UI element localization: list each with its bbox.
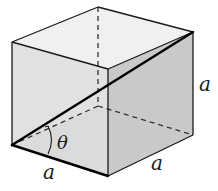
- edge-label-right-vertical: a: [199, 72, 211, 96]
- cube-svg: θ a a a: [0, 0, 218, 191]
- cube-diagram: θ a a a: [0, 0, 218, 191]
- angle-label-theta: θ: [57, 132, 68, 153]
- edge-label-front-bottom: a: [43, 160, 55, 184]
- edge-label-right-bottom: a: [151, 151, 163, 175]
